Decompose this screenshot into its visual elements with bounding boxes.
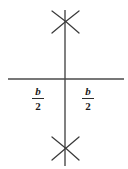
length-label-left-numerator: b: [35, 86, 41, 98]
length-label-right-denominator: 2: [85, 100, 91, 112]
geometry-figure: b 2 b 2: [0, 0, 128, 169]
length-label-left: b 2: [27, 86, 49, 112]
construction-drawing: [0, 0, 128, 169]
fraction-bar-icon: [82, 98, 94, 99]
length-label-right: b 2: [77, 86, 99, 112]
length-label-left-denominator: 2: [35, 100, 41, 112]
fraction-bar-icon: [32, 98, 44, 99]
length-label-right-numerator: b: [85, 86, 91, 98]
